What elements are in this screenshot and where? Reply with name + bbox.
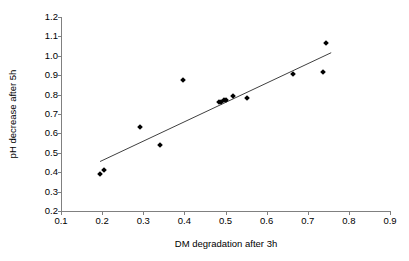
y-axis-tick-label: 0.5 [32, 148, 58, 158]
y-axis-tick-mark [58, 114, 62, 115]
y-axis-tick-mark [58, 133, 62, 134]
y-axis-tick-mark [58, 17, 62, 18]
data-point [157, 142, 163, 148]
data-point [223, 97, 229, 103]
data-point [216, 100, 222, 106]
x-axis-tick-label: 0.2 [87, 216, 117, 226]
data-point [98, 171, 104, 177]
y-axis-tick-label: 0.7 [32, 109, 58, 119]
x-axis-tick-label: 0.9 [375, 216, 405, 226]
data-point [244, 95, 250, 101]
y-axis-tick-mark [58, 172, 62, 173]
y-axis-tick-mark [58, 36, 62, 37]
y-axis-tick-label: 0.4 [32, 167, 58, 177]
data-point [101, 168, 107, 174]
y-axis-tick-mark [58, 75, 62, 76]
y-axis-tick-mark [58, 56, 62, 57]
x-axis-tick-mark [267, 211, 268, 215]
x-axis-tick-label: 0.5 [211, 216, 241, 226]
y-axis-tick-mark [58, 153, 62, 154]
y-axis-tick-label: 0.8 [32, 90, 58, 100]
y-axis-tick-mark [58, 95, 62, 96]
data-point [230, 93, 236, 99]
x-axis-tick-mark [61, 211, 62, 215]
data-point [290, 71, 296, 77]
x-axis-title: DM degradation after 3h [62, 238, 390, 249]
data-point [323, 40, 329, 46]
x-axis-tick-mark [390, 211, 391, 215]
x-axis-tick-label: 0.7 [293, 216, 323, 226]
data-point [221, 97, 227, 103]
x-axis-tick-mark [226, 211, 227, 215]
y-axis-title: pH decrease after 5h [1, 9, 23, 220]
data-point [180, 78, 186, 84]
x-axis-tick-mark [184, 211, 185, 215]
x-axis-tick-mark [102, 211, 103, 215]
data-point [218, 99, 224, 105]
x-axis-tick-label: 0.3 [128, 216, 158, 226]
y-axis-tick-label: 1.1 [32, 31, 58, 41]
data-point [137, 125, 143, 131]
x-axis-tick-labels: 0.10.20.30.40.50.60.70.80.9 [0, 216, 409, 230]
y-axis-tick-mark [58, 192, 62, 193]
y-axis-tick-label: 1.0 [32, 51, 58, 61]
x-axis-tick-mark [349, 211, 350, 215]
x-axis-tick-label: 0.8 [334, 216, 364, 226]
scatter-chart: pH decrease after 5h DM degradation afte… [0, 0, 409, 261]
x-axis-tick-label: 0.6 [252, 216, 282, 226]
y-axis-tick-label: 0.6 [32, 128, 58, 138]
y-axis-tick-label: 1.2 [32, 12, 58, 22]
data-point [321, 69, 327, 75]
x-axis-tick-mark [143, 211, 144, 215]
y-axis-tick-label: 0.3 [32, 187, 58, 197]
y-axis-tick-label: 0.9 [32, 70, 58, 80]
x-axis-tick-mark [308, 211, 309, 215]
x-axis-tick-label: 0.1 [46, 216, 76, 226]
x-axis-tick-label: 0.4 [169, 216, 199, 226]
